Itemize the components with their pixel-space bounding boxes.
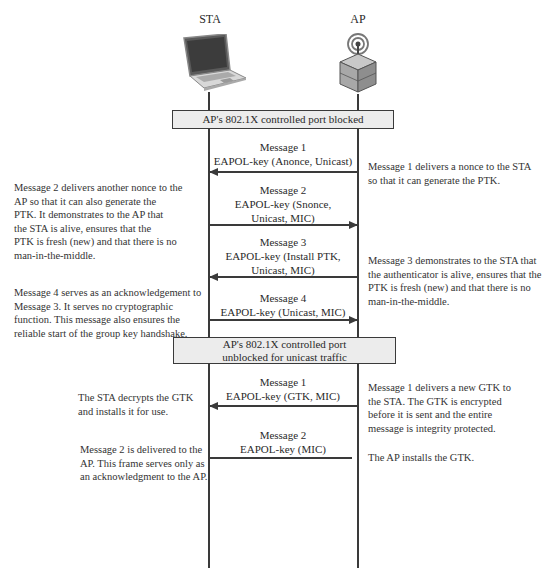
- group-msg1-label: Message 1 EAPOL-key (GTK, MIC): [210, 375, 356, 403]
- group-msg2-note-left: Message 2 is delivered to the AP. This f…: [80, 443, 208, 484]
- fourway-msg3-note: Message 3 demonstrates to the STA that t…: [368, 254, 557, 308]
- group-msg2-label: Message 2 EAPOL-key (MIC): [210, 428, 356, 456]
- laptop-icon: [168, 34, 248, 96]
- fourway-msg2-arrow: [210, 224, 357, 226]
- ap-label: AP: [328, 12, 388, 27]
- group-msg2-line: [210, 457, 352, 459]
- ap-lifeline: [357, 94, 359, 568]
- port-blocked-box: AP's 802.1X controlled port blocked: [172, 110, 394, 129]
- access-point-icon: [336, 32, 380, 98]
- group-msg2-note-right: The AP installs the GTK.: [368, 451, 553, 465]
- group-msg1-note-right: Message 1 delivers a new GTK to the STA.…: [368, 381, 553, 435]
- fourway-msg2-note: Message 2 delivers another nonce to the …: [14, 181, 204, 262]
- port-unblocked-box: AP's 802.1X controlled port unblocked fo…: [173, 337, 396, 364]
- fourway-msg1-arrow: [210, 171, 357, 173]
- fourway-msg4-note: Message 4 serves as an acknowledgement t…: [14, 286, 214, 340]
- fourway-msg3-arrow: [210, 276, 357, 278]
- port-blocked-text: AP's 802.1X controlled port blocked: [173, 113, 393, 126]
- msg-title: Message 1: [210, 140, 356, 154]
- fourway-msg1-label: Message 1 EAPOL-key (Anonce, Unicast): [210, 140, 356, 168]
- fourway-msg4-arrow: [210, 319, 357, 321]
- group-msg1-note-left: The STA decrypts the GTK and installs it…: [78, 391, 208, 418]
- fourway-msg1-note: Message 1 delivers a nonce to the STA so…: [368, 160, 553, 187]
- sta-label: STA: [180, 12, 240, 27]
- group-msg1-arrow: [210, 405, 357, 407]
- fourway-msg4-label: Message 4 EAPOL-key (Unicast, MIC): [210, 291, 356, 319]
- fourway-msg2-label: Message 2 EAPOL-key (Snonce, Unicast, MI…: [210, 183, 356, 225]
- fourway-msg3-label: Message 3 EAPOL-key (Install PTK, Unicas…: [210, 235, 356, 277]
- msg-content: EAPOL-key (Anonce, Unicast): [210, 154, 356, 168]
